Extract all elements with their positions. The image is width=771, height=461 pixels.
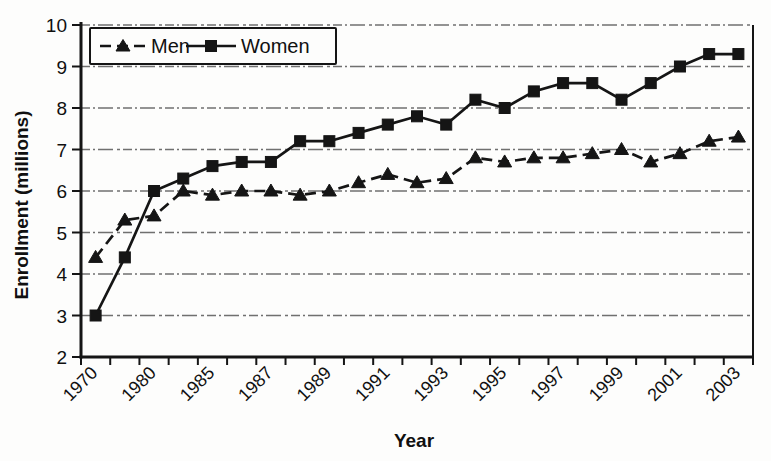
data-point-men-12 [439,172,453,184]
data-point-women-17 [587,78,598,89]
data-point-women-3 [178,173,189,184]
data-point-women-7 [295,136,306,147]
legend: Men Women [90,28,336,64]
y-tick-label-5: 5 [56,223,67,244]
data-point-men-18 [615,143,629,155]
grid-layer [81,25,753,316]
legend-women-marker-square-icon [206,41,217,52]
data-point-women-20 [674,61,685,72]
y-tick-label-8: 8 [56,98,67,119]
x-tick-label-1985: 1985 [176,363,218,405]
axis-layer: 2345678910197019801985198719891991199319… [46,15,753,405]
x-tick-label-1999: 1999 [585,363,627,405]
legend-men-label: Men [151,35,190,57]
y-tick-label-4: 4 [56,264,67,285]
data-point-women-11 [412,111,423,122]
data-point-women-5 [236,156,247,167]
data-point-women-14 [499,103,510,114]
y-tick-label-2: 2 [56,347,67,368]
data-point-women-18 [616,94,627,105]
y-tick-label-6: 6 [56,181,67,202]
x-tick-label-1989: 1989 [293,363,335,405]
data-point-women-1 [119,252,130,263]
data-point-men-2 [147,209,161,221]
data-point-women-0 [90,310,101,321]
data-point-women-19 [645,78,656,89]
data-point-men-22 [731,130,745,142]
data-point-men-6 [264,184,278,196]
y-tick-label-9: 9 [56,57,67,78]
data-point-men-10 [381,167,395,179]
x-tick-label-1991: 1991 [351,363,393,405]
enrollment-line-chart: 2345678910197019801985198719891991199319… [0,0,771,461]
x-tick-label-1980: 1980 [117,363,159,405]
series-line-men [96,137,739,257]
data-point-women-9 [353,127,364,138]
x-tick-label-2003: 2003 [702,363,744,405]
x-tick-label-1987: 1987 [234,363,276,405]
y-tick-label-10: 10 [46,15,67,36]
y-axis-title: Enrollment (millions) [11,111,32,300]
data-point-women-10 [382,119,393,130]
x-axis-title: Year [394,430,435,451]
data-point-women-8 [324,136,335,147]
data-point-men-3 [176,184,190,196]
x-tick-label-1997: 1997 [526,363,568,405]
data-point-women-6 [265,156,276,167]
data-point-men-8 [322,184,336,196]
data-point-women-21 [704,49,715,60]
enrollment-chart-figure: 2345678910197019801985198719891991199319… [0,0,771,461]
data-point-women-13 [470,94,481,105]
data-point-men-13 [468,151,482,163]
data-point-women-2 [149,186,160,197]
series-layer [89,49,746,321]
y-tick-label-7: 7 [56,140,67,161]
data-point-men-17 [585,147,599,159]
x-tick-label-1970: 1970 [59,363,101,405]
data-point-women-22 [733,49,744,60]
data-point-women-4 [207,161,218,172]
legend-women-label: Women [241,35,310,57]
data-point-women-15 [528,86,539,97]
data-point-women-16 [558,78,569,89]
x-tick-label-1995: 1995 [468,363,510,405]
x-tick-label-2001: 2001 [643,363,685,405]
x-tick-label-1993: 1993 [410,363,452,405]
data-point-women-12 [441,119,452,130]
y-tick-label-3: 3 [56,306,67,327]
